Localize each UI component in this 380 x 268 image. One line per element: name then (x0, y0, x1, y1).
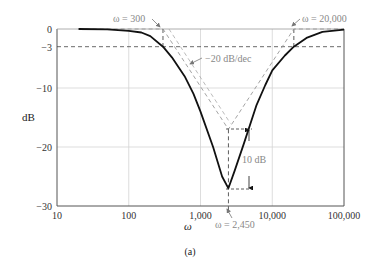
y-tick-labels: 0−3−10−20−30 (36, 24, 52, 212)
y-tick-label: −30 (36, 201, 52, 212)
series-line (79, 29, 344, 129)
annotation-omega-300: ω = 300 (113, 13, 145, 24)
grid-lines (57, 29, 344, 206)
chart-svg: 0−3−10−20−30 101001,00010,000100,000 dB … (0, 0, 380, 268)
x-tick-label: 10,000 (259, 210, 287, 221)
bode-magnitude-chart: 0−3−10−20−30 101001,00010,000100,000 dB … (0, 0, 380, 268)
y-tick-label: −20 (36, 142, 52, 153)
y-axis-label: dB (22, 111, 35, 123)
figure-label: (a) (184, 246, 195, 258)
x-tick-labels: 101001,00010,000100,000 (52, 210, 360, 221)
x-tick-label: 100,000 (328, 210, 361, 221)
annotation-omega-20000: ω = 20,000 (302, 13, 347, 24)
x-tick-label: 10 (52, 210, 62, 221)
arrow-20000 (292, 19, 300, 26)
y-tick-label: −10 (36, 83, 52, 94)
annotation-10db: 10 dB (242, 154, 267, 165)
annotation-slope: −20 dB/dec (205, 53, 252, 64)
arrow-300 (152, 19, 160, 27)
x-axis-label: ω (184, 220, 192, 232)
x-tick-label: 100 (121, 210, 136, 221)
annotations: ω = 300 ω = 20,000 −20 dB/dec 10 dB ω = … (113, 13, 347, 230)
arrow-2450 (227, 209, 232, 218)
y-tick-label: 0 (47, 24, 52, 35)
asymptote-series (79, 29, 344, 129)
y-tick-label: −3 (41, 42, 52, 53)
x-tick-label: 1,000 (189, 210, 212, 221)
annotation-omega-2450: ω = 2,450 (215, 219, 255, 230)
